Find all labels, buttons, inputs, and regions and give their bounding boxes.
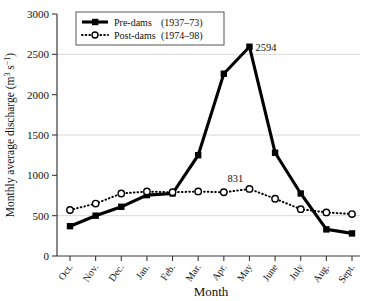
x-tick-label: Oct. xyxy=(56,262,75,282)
legend-period: (1974–98) xyxy=(161,30,203,42)
data-point-post-dams xyxy=(246,186,252,192)
y-tick-label: 500 xyxy=(33,210,50,222)
x-tick-label: Apr. xyxy=(209,262,228,283)
legend-label: Post-dams xyxy=(114,30,156,41)
y-tick-label: 1500 xyxy=(27,129,50,141)
data-label: 831 xyxy=(228,173,244,184)
data-point-post-dams xyxy=(195,188,201,194)
data-point-post-dams xyxy=(272,196,278,202)
data-point-pre-dams xyxy=(67,223,73,229)
x-tick-label: July xyxy=(287,262,306,282)
data-point-post-dams xyxy=(349,211,355,217)
data-point-pre-dams xyxy=(118,204,124,210)
data-point-post-dams xyxy=(92,200,98,206)
x-tick-label: June xyxy=(260,261,280,283)
x-tick-label: Aug. xyxy=(311,262,331,284)
data-point-post-dams xyxy=(323,209,329,215)
y-tick-label: 2500 xyxy=(27,48,50,60)
data-point-pre-dams xyxy=(349,230,355,236)
legend-marker-post-dams xyxy=(92,32,98,38)
y-axis-title: Monthly average discharge (m3 s−1) xyxy=(3,53,17,218)
x-tick-label: Jan. xyxy=(133,262,151,281)
data-point-pre-dams xyxy=(92,212,98,218)
legend-period: (1937–73) xyxy=(161,17,203,29)
legend-label: Pre-dams xyxy=(114,17,152,28)
y-tick-label: 2000 xyxy=(27,89,50,101)
data-point-post-dams xyxy=(169,189,175,195)
data-point-post-dams xyxy=(118,190,124,196)
data-point-post-dams xyxy=(144,188,150,194)
y-tick-label: 1000 xyxy=(27,169,50,181)
data-point-post-dams xyxy=(67,207,73,213)
discharge-line-chart: 050010001500200025003000Monthly average … xyxy=(0,0,373,301)
x-tick-label: Feb. xyxy=(158,262,177,283)
x-tick-label: Mar. xyxy=(183,262,203,284)
x-tick-label: Dec. xyxy=(106,262,126,284)
data-point-pre-dams xyxy=(195,152,201,158)
data-point-post-dams xyxy=(298,206,304,212)
chart-canvas: 050010001500200025003000Monthly average … xyxy=(0,0,373,301)
legend-marker-pre-dams xyxy=(92,19,98,25)
x-tick-label: Nov. xyxy=(80,262,100,284)
series-line-pre-dams xyxy=(70,47,352,234)
x-axis-title: Month xyxy=(194,284,229,299)
data-label: 2594 xyxy=(255,42,277,53)
data-point-pre-dams xyxy=(298,190,304,196)
data-point-pre-dams xyxy=(221,70,227,76)
x-tick-label: Sept. xyxy=(336,262,357,285)
x-tick-label: May xyxy=(235,262,255,283)
data-point-post-dams xyxy=(221,189,227,195)
y-tick-label: 3000 xyxy=(27,8,50,20)
y-tick-label: 0 xyxy=(44,250,50,262)
data-point-pre-dams xyxy=(246,44,252,50)
data-point-pre-dams xyxy=(323,226,329,232)
data-point-pre-dams xyxy=(272,150,278,156)
